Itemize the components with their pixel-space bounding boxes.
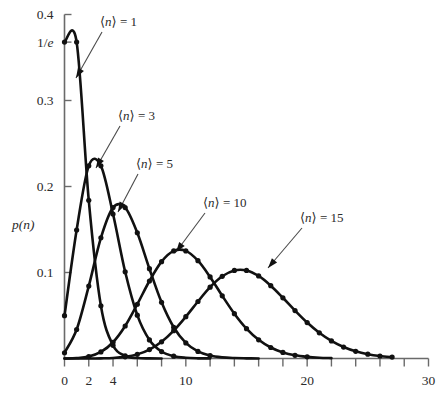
data-point-marker (280, 295, 285, 300)
data-point-marker (98, 349, 103, 354)
data-point-marker (183, 340, 188, 345)
data-point-marker (86, 198, 91, 203)
data-point-marker (62, 350, 67, 355)
data-point-marker (220, 274, 225, 279)
annotation-pointers (76, 32, 302, 268)
data-point-marker (305, 320, 310, 325)
data-point-marker (159, 300, 164, 305)
data-point-marker (123, 354, 128, 359)
y-axis-tick-label: 0.1 (37, 265, 54, 280)
x-axis-tick-label: 10 (179, 373, 193, 388)
data-point-marker (86, 163, 91, 168)
series-annotation-label: ⟨n⟩ = 15 (300, 210, 343, 225)
data-point-marker (195, 258, 200, 263)
x-axis-tick-label: 20 (300, 373, 314, 388)
data-point-marker (171, 354, 176, 359)
data-point-marker (208, 274, 213, 279)
data-point-marker (86, 283, 91, 288)
data-point-marker (232, 268, 237, 273)
data-point-marker (62, 40, 67, 45)
data-point-marker (135, 352, 140, 357)
data-point-marker (147, 278, 152, 283)
data-point-marker (159, 259, 164, 264)
poisson-distribution-chart: 0.10.20.31/e0.4024102030p(n) ⟨n⟩ = 1⟨n⟩ … (0, 0, 447, 394)
data-point-marker (74, 327, 79, 332)
data-point-marker (292, 353, 297, 358)
data-point-marker (292, 308, 297, 313)
data-point-marker (171, 328, 176, 333)
data-point-marker (123, 323, 128, 328)
x-axis-tick-label: 4 (110, 373, 117, 388)
data-point-marker (305, 354, 310, 359)
data-point-marker (208, 353, 213, 358)
data-point-marker (98, 303, 103, 308)
data-point-marker (98, 235, 103, 240)
data-point-marker (256, 273, 261, 278)
data-point-marker (159, 339, 164, 344)
series-annotation-label: ⟨n⟩ = 3 (118, 108, 155, 123)
data-point-marker (377, 353, 382, 358)
data-point-marker (232, 311, 237, 316)
data-point-marker (244, 268, 249, 273)
data-point-marker (159, 349, 164, 354)
data-point-marker (268, 345, 273, 350)
data-point-marker (329, 338, 334, 343)
data-point-marker (135, 302, 140, 307)
data-point-marker (268, 283, 273, 288)
data-point-marker (280, 350, 285, 355)
data-point-marker (341, 344, 346, 349)
x-axis-tick-label: 0 (61, 373, 68, 388)
series-annotations: ⟨n⟩ = 1⟨n⟩ = 3⟨n⟩ = 5⟨n⟩ = 10⟨n⟩ = 15 (100, 14, 343, 225)
data-point-marker (390, 355, 395, 360)
data-point-marker (110, 205, 115, 210)
data-point-marker (365, 352, 370, 357)
data-point-marker (256, 337, 261, 342)
x-axis-tick-label: 2 (85, 373, 92, 388)
data-point-marker (317, 330, 322, 335)
series-curve (65, 204, 259, 358)
data-point-marker (123, 269, 128, 274)
data-point-marker (110, 340, 115, 345)
data-point-marker (353, 349, 358, 354)
y-axis-tick-label: 0.4 (37, 7, 54, 22)
y-axis-title: p(n) (11, 217, 35, 232)
data-point-marker (135, 313, 140, 318)
y-axis-tick-label: 0.3 (37, 93, 54, 108)
data-point-marker (74, 40, 79, 45)
data-point-marker (195, 349, 200, 354)
series-annotation-label: ⟨n⟩ = 5 (136, 156, 173, 171)
data-point-marker (208, 285, 213, 290)
data-point-marker (135, 230, 140, 235)
data-point-marker (195, 299, 200, 304)
data-point-marker (110, 211, 115, 216)
series-curve (65, 30, 162, 358)
data-point-marker (171, 248, 176, 253)
data-point-marker (74, 227, 79, 232)
data-point-marker (62, 313, 67, 318)
series-curve (65, 159, 211, 359)
data-point-marker (147, 347, 152, 352)
chart-canvas: 0.10.20.31/e0.4024102030p(n) ⟨n⟩ = 1⟨n⟩ … (0, 0, 447, 394)
x-axis-tick-label: 30 (422, 373, 436, 388)
data-point-marker (86, 354, 91, 359)
series-annotation-label: ⟨n⟩ = 10 (203, 195, 246, 210)
y-axis-tick-label: 1/e (37, 35, 54, 50)
axes (65, 15, 429, 367)
series-annotation-label: ⟨n⟩ = 1 (100, 14, 137, 29)
data-point-marker (147, 266, 152, 271)
data-point-marker (183, 314, 188, 319)
data-point-marker (147, 337, 152, 342)
data-point-marker (220, 293, 225, 298)
y-axis-tick-label: 0.2 (37, 179, 54, 194)
data-point-marker (183, 248, 188, 253)
data-point-marker (244, 326, 249, 331)
